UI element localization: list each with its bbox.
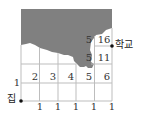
bottom-value: 1 xyxy=(109,102,115,112)
cell-value: 3 xyxy=(50,72,56,82)
bottom-value: 1 xyxy=(91,102,97,112)
cell-value: 16 xyxy=(98,35,111,45)
cell-value: 5 xyxy=(86,35,92,45)
cell-value: 2 xyxy=(32,72,38,82)
cell-value: 5 xyxy=(86,53,92,63)
home-label: 집 xyxy=(7,94,16,104)
home-dot xyxy=(19,99,23,103)
cell-value: 5 xyxy=(86,72,92,82)
cell-value: 4 xyxy=(68,72,74,82)
cell-value: 6 xyxy=(104,72,110,82)
school-dot xyxy=(110,44,114,48)
left-value: 1 xyxy=(14,78,20,88)
bottom-value: 1 xyxy=(55,102,61,112)
bottom-value: 1 xyxy=(73,102,79,112)
cell-value: 11 xyxy=(98,53,111,63)
bottom-value: 1 xyxy=(37,102,43,112)
school-label: 학교 xyxy=(115,40,133,50)
